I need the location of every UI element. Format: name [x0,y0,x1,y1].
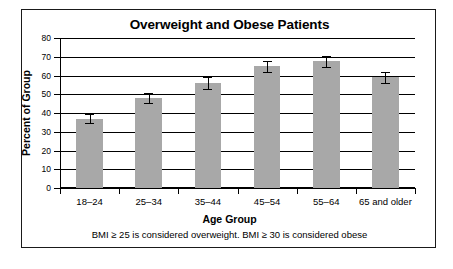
bar [135,98,162,188]
error-bar-cap [381,83,390,84]
bar [372,77,399,188]
error-bar [149,93,150,102]
gridline [60,57,415,58]
chart-figure: Overweight and Obese Patients Percent of… [21,9,436,248]
y-tick-mark [54,94,60,95]
error-bar [326,56,327,67]
error-bar-cap [322,56,331,57]
error-bar [208,77,209,88]
y-tick-label: 70 [42,52,51,62]
y-tick-mark [54,113,60,114]
x-tick-label: 25–34 [136,196,162,207]
y-tick-mark [54,76,60,77]
x-tick-label: 55–64 [313,196,339,207]
gridline [60,113,415,114]
gridline [60,94,415,95]
y-tick-mark [54,151,60,152]
bar [195,83,222,188]
y-tick-mark [54,132,60,133]
error-bar-cap [85,123,94,124]
error-bar-cap [203,89,212,90]
x-tick-mark [119,188,120,194]
gridline [60,169,415,170]
x-tick-mark [60,188,61,194]
error-bar [267,61,268,72]
y-tick-label: 10 [42,164,51,174]
bar [254,66,281,188]
y-tick-mark [54,169,60,170]
error-bar-cap [263,61,272,62]
bar [313,61,340,188]
error-bar [90,114,91,123]
y-tick-mark [54,38,60,39]
y-axis-label: Percent of Group [20,70,32,156]
y-tick-mark [54,57,60,58]
x-tick-label: 35–44 [195,196,221,207]
x-tick-mark [415,188,416,194]
y-tick-label: 60 [42,71,51,81]
y-tick-label: 50 [42,89,51,99]
y-tick-label: 40 [42,108,51,118]
error-bar [385,72,386,83]
x-tick-mark [297,188,298,194]
y-tick-label: 20 [42,146,51,156]
error-bar-cap [381,72,390,73]
gridline [60,76,415,77]
x-tick-label: 45–54 [254,196,280,207]
error-bar-cap [203,77,212,78]
x-tick-mark [356,188,357,194]
x-tick-label: 65 and older [359,196,412,207]
error-bar-cap [322,67,331,68]
y-tick-label: 80 [42,33,51,43]
bar [76,119,103,188]
error-bar-cap [263,72,272,73]
gridline [60,132,415,133]
plot-area: Percent of Group 01020304050607080 18–24… [60,38,415,188]
error-bar-cap [144,103,153,104]
y-tick-label: 30 [42,127,51,137]
gridline [60,38,415,39]
error-bar-cap [144,93,153,94]
gridline [60,151,415,152]
error-bar-cap [85,114,94,115]
x-axis-label: Age Group [22,213,437,225]
chart-title: Overweight and Obese Patients [22,17,437,32]
x-tick-mark [238,188,239,194]
x-tick-label: 18–24 [76,196,102,207]
chart-footnote: BMI ≥ 25 is considered overweight. BMI ≥… [22,229,437,240]
x-tick-mark [178,188,179,194]
y-tick-label: 0 [46,183,51,193]
